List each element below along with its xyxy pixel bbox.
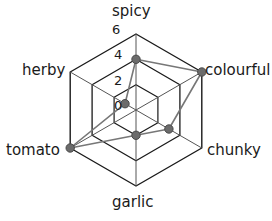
axis-label-chunky: chunky xyxy=(207,143,261,158)
axis-label-tomato: tomato xyxy=(6,143,60,158)
data-point-garlic xyxy=(132,131,140,139)
radar-chart: spicy colourful chunky garlic tomato her… xyxy=(0,0,272,221)
radial-tick-6: 6 xyxy=(112,23,120,36)
data-point-tomato xyxy=(66,144,74,152)
axis-label-herby: herby xyxy=(22,63,65,78)
radial-tick-0: 0 xyxy=(114,99,122,112)
axis-label-garlic: garlic xyxy=(112,195,153,210)
radial-tick-4: 4 xyxy=(114,48,122,61)
radar-chart-canvas xyxy=(0,0,272,221)
data-point-chunky xyxy=(165,125,173,133)
radial-tick-2: 2 xyxy=(114,74,122,87)
data-point-spicy xyxy=(132,55,140,63)
axis-label-spicy: spicy xyxy=(112,4,151,19)
axis-label-colourful: colourful xyxy=(205,63,270,78)
